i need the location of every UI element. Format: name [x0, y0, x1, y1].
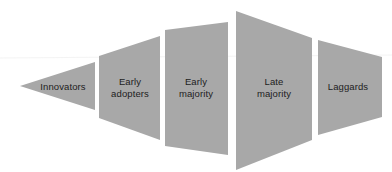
- segment-shape-early-majority[interactable]: [165, 22, 228, 155]
- innovation-adoption-funnel-diagram: Innovators Early adopters Early majority…: [0, 0, 392, 172]
- funnel-canvas: [0, 0, 392, 172]
